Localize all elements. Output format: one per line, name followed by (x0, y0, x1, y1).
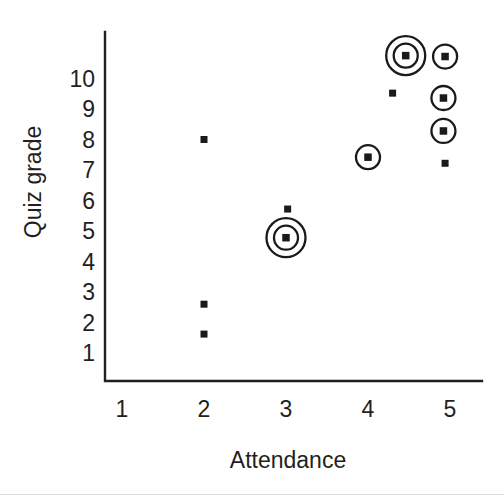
y-tick-label: 3 (82, 281, 95, 304)
y-tick-label: 4 (82, 250, 95, 273)
point-marker (402, 52, 410, 60)
y-axis-title: Quiz grade (22, 126, 45, 239)
data-point (386, 36, 425, 75)
x-tick-label: 3 (280, 398, 293, 421)
data-point (284, 206, 291, 213)
x-tick-label: 5 (444, 398, 457, 421)
point-marker (389, 90, 396, 97)
y-tick-label: 6 (82, 189, 95, 212)
y-tick-label: 9 (82, 98, 95, 121)
axes-group (105, 32, 482, 381)
axis-lines (105, 32, 482, 381)
data-point (431, 119, 455, 143)
x-axis-title: Attendance (230, 449, 346, 472)
data-points-layer (201, 36, 458, 337)
data-point (389, 90, 396, 97)
point-marker (441, 53, 449, 61)
data-point (267, 218, 306, 257)
x-tick-label: 2 (198, 398, 211, 421)
scatter-plot-figure: 12345678910 12345 Attendance Quiz grade (0, 0, 504, 499)
y-tick-label: 5 (82, 220, 95, 243)
y-tick-label: 10 (69, 67, 95, 90)
y-tick-label: 7 (82, 159, 95, 182)
y-tick-label: 8 (82, 128, 95, 151)
data-point (201, 301, 208, 308)
data-point (201, 136, 208, 143)
data-point (442, 160, 449, 167)
point-marker (442, 160, 449, 167)
data-point (201, 331, 208, 338)
data-point (433, 45, 457, 69)
y-tick-label: 1 (82, 342, 95, 365)
point-marker (440, 127, 448, 134)
point-marker (201, 331, 208, 338)
point-marker (201, 301, 208, 308)
point-marker (201, 136, 208, 143)
y-tick-label: 2 (82, 311, 95, 334)
x-tick-label: 1 (116, 398, 129, 421)
data-point (431, 86, 455, 110)
point-marker (284, 206, 291, 213)
point-marker (440, 94, 448, 102)
point-marker (282, 234, 290, 242)
data-point (356, 145, 380, 169)
x-tick-label: 4 (362, 398, 375, 421)
point-marker (364, 153, 372, 161)
bottom-divider (0, 494, 504, 495)
